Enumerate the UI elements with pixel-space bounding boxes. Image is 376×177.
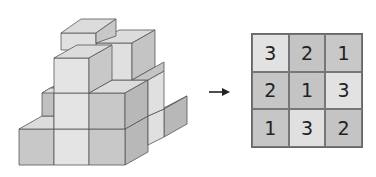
grid-cell: 2 — [325, 109, 362, 147]
top-view-count-grid: 3 2 1 2 1 3 1 3 2 — [251, 33, 363, 148]
grid-cell: 1 — [252, 109, 289, 147]
grid-cell: 2 — [252, 72, 289, 110]
grid-cell: 1 — [289, 72, 326, 110]
grid-cell: 1 — [325, 34, 362, 72]
grid-cell: 3 — [252, 34, 289, 72]
cube-stack-illustration — [0, 0, 200, 177]
right-arrow-icon — [208, 86, 232, 98]
grid-cell: 3 — [289, 109, 326, 147]
grid-cell: 3 — [325, 72, 362, 110]
grid-cell: 2 — [289, 34, 326, 72]
